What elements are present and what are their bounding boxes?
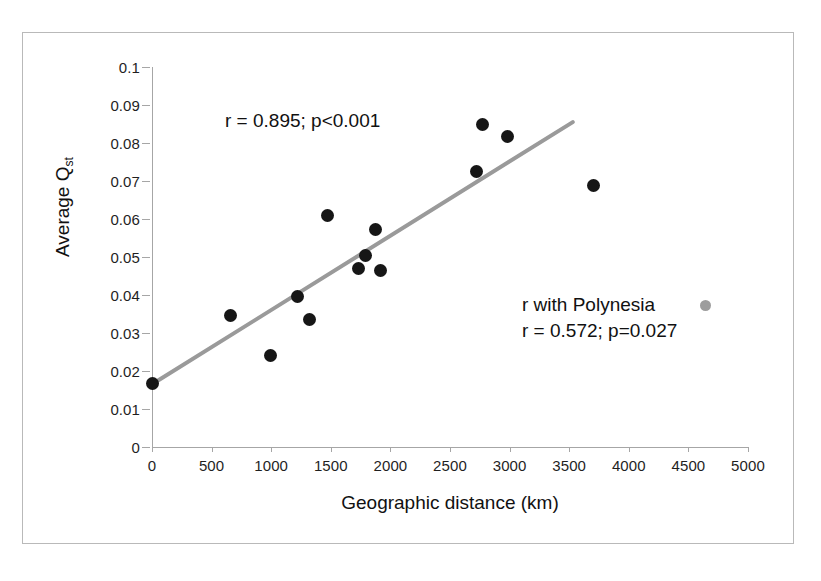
x-axis-tick bbox=[748, 447, 749, 452]
y-axis-tick-label: 0.09 bbox=[110, 97, 140, 114]
x-axis-tick bbox=[569, 447, 570, 452]
x-axis-tick-label: 3500 bbox=[552, 457, 586, 474]
x-axis-tick-label: 4000 bbox=[612, 457, 646, 474]
y-axis-title: Average Qst bbox=[52, 157, 74, 257]
data-point bbox=[264, 349, 277, 362]
y-axis-tick bbox=[142, 295, 150, 296]
y-axis-tick bbox=[142, 371, 150, 372]
x-axis-tick-label: 2500 bbox=[433, 457, 467, 474]
data-point bbox=[321, 209, 334, 222]
data-point bbox=[303, 313, 316, 326]
gray-dot-marker-icon bbox=[700, 300, 711, 311]
y-axis-tick bbox=[142, 447, 150, 448]
y-axis-tick bbox=[142, 181, 150, 182]
y-axis-tick bbox=[142, 219, 150, 220]
y-axis-tick-label: 0.01 bbox=[110, 401, 140, 418]
data-point bbox=[369, 223, 382, 236]
y-axis-tick bbox=[142, 105, 150, 106]
data-point bbox=[352, 262, 365, 275]
x-axis-tick-label: 500 bbox=[199, 457, 224, 474]
data-point bbox=[224, 309, 237, 322]
data-point bbox=[587, 179, 600, 192]
y-axis-title-base: Average Q bbox=[52, 167, 73, 257]
x-axis-tick bbox=[450, 447, 451, 452]
x-axis-tick-label: 4500 bbox=[672, 457, 706, 474]
y-axis-tick-label: 0.06 bbox=[110, 211, 140, 228]
x-axis-tick bbox=[331, 447, 332, 452]
y-axis-tick-label: 0.03 bbox=[110, 325, 140, 342]
x-axis-tick bbox=[629, 447, 630, 452]
x-axis-tick-label: 2000 bbox=[374, 457, 408, 474]
data-point bbox=[146, 377, 159, 390]
y-axis-title-subscript: st bbox=[62, 157, 76, 166]
x-axis-tick bbox=[390, 447, 391, 452]
y-axis-tick bbox=[142, 333, 150, 334]
y-axis-tick-label: 0.07 bbox=[110, 173, 140, 190]
x-axis-tick-label: 3000 bbox=[493, 457, 527, 474]
y-axis-tick-label: 0.02 bbox=[110, 363, 140, 380]
y-axis-tick bbox=[142, 67, 150, 68]
y-axis-tick-label: 0.04 bbox=[110, 287, 140, 304]
x-axis-tick bbox=[688, 447, 689, 452]
data-point bbox=[476, 118, 489, 131]
figure-page: Average Qst Geographic distance (km) 00.… bbox=[0, 0, 821, 581]
x-axis-tick bbox=[212, 447, 213, 452]
y-axis-tick-label: 0.08 bbox=[110, 135, 140, 152]
x-axis-tick bbox=[510, 447, 511, 452]
x-axis-tick-label: 1000 bbox=[254, 457, 288, 474]
data-point bbox=[291, 290, 304, 303]
x-axis-tick-label: 1500 bbox=[314, 457, 348, 474]
x-axis-title: Geographic distance (km) bbox=[152, 492, 748, 514]
x-axis-tick bbox=[152, 447, 153, 452]
correlation-annotation-primary: r = 0.895; p<0.001 bbox=[225, 108, 380, 134]
data-point bbox=[374, 264, 387, 277]
x-axis-tick bbox=[271, 447, 272, 452]
y-axis-tick bbox=[142, 409, 150, 410]
y-axis-tick bbox=[142, 143, 150, 144]
y-axis-tick-label: 0.1 bbox=[119, 59, 140, 76]
y-axis-tick bbox=[142, 257, 150, 258]
x-axis-tick-label: 0 bbox=[148, 457, 156, 474]
x-axis-tick-label: 5000 bbox=[731, 457, 765, 474]
y-axis-tick-label: 0 bbox=[132, 439, 140, 456]
y-axis-tick-label: 0.05 bbox=[110, 249, 140, 266]
polynesia-label: r with Polynesia bbox=[522, 292, 677, 318]
data-point bbox=[359, 249, 372, 262]
correlation-annotation-secondary: r with Polynesia r = 0.572; p=0.027 bbox=[522, 292, 677, 343]
data-point bbox=[470, 165, 483, 178]
polynesia-stats: r = 0.572; p=0.027 bbox=[522, 318, 677, 344]
data-point bbox=[501, 130, 514, 143]
